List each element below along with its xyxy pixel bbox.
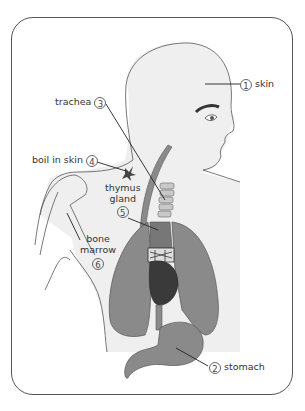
number-badge: 5 xyxy=(117,206,129,218)
label-trachea: trachea 3 xyxy=(55,96,106,109)
label-skin: 1 skin xyxy=(240,78,274,91)
label-thymus: thymus gland 5 xyxy=(105,182,141,218)
number-badge: 3 xyxy=(94,97,106,109)
esophagus-lower xyxy=(156,305,162,330)
label-bone-marrow: bone marrow 6 xyxy=(80,233,116,270)
number-badge: 1 xyxy=(240,79,252,91)
number-badge: 6 xyxy=(92,258,104,270)
number-badge: 2 xyxy=(209,362,221,374)
label-boil: boil in skin 4 xyxy=(32,154,98,167)
label-stomach: 2 stomach xyxy=(209,361,265,374)
bronchi xyxy=(148,248,174,262)
number-badge: 4 xyxy=(86,155,98,167)
thymus-gland xyxy=(150,222,172,248)
human-body-illustration xyxy=(0,0,305,411)
